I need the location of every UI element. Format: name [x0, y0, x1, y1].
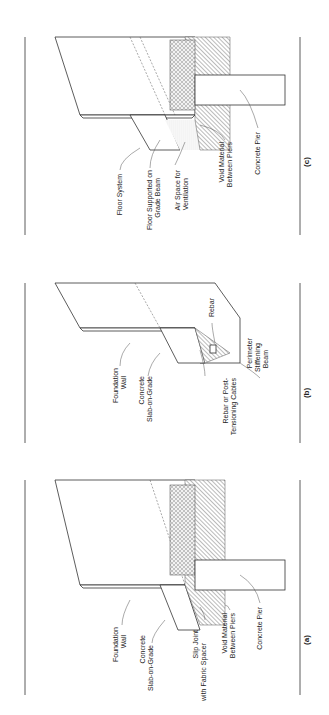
label-pier: Concrete Pier [254, 131, 261, 174]
panel-b: Foundation Wall Concrete Slab-on-Grade R… [25, 283, 311, 443]
label-cables-2: Tensioning Cables [230, 378, 238, 436]
label-void-2: Between Piers [226, 142, 233, 188]
void-material [170, 40, 195, 110]
label-void-1: Void Material [218, 142, 225, 183]
rebar [210, 345, 216, 353]
label-void-1: Void Material [221, 613, 228, 654]
label-wall-1: Foundation [112, 627, 119, 662]
label-slab-2: Slab-on-Grade [146, 376, 153, 422]
label-beam-3: Beam [262, 350, 269, 368]
label-cables-1: Rebar or Post- [222, 377, 229, 423]
label-wall-2: Wall [120, 635, 127, 649]
label-pier: Concrete Pier [256, 606, 263, 649]
label-slab-1: Concrete [139, 635, 146, 664]
panel-c: Floor System Floor Supported on Grade Be… [25, 37, 311, 235]
label-slip-2: with Fabric Spacer [200, 642, 208, 702]
label-grade-beam-1: Floor Supported on [146, 170, 154, 230]
label-slab-2: Slab-on-Grade [147, 645, 154, 691]
caption-a: (a) [302, 635, 311, 645]
panel-a: Foundation Wall Concrete Slab-on-Grade S… [25, 480, 311, 702]
label-slip-1: Slip Joint [192, 630, 200, 658]
label-wall-1: Foundation [112, 368, 119, 403]
label-slab-1: Concrete [138, 376, 145, 405]
label-wall-2: Wall [120, 376, 127, 390]
label-rebar: Rebar [208, 297, 215, 317]
foundation-diagram: Floor System Floor Supported on Grade Be… [0, 0, 329, 715]
void-material [170, 485, 195, 575]
label-grade-beam-2: Grade Beam [154, 178, 161, 218]
label-air-2: Ventilation [182, 178, 189, 210]
caption-c: (c) [302, 157, 311, 167]
label-floor-system: Floor System [116, 174, 124, 215]
label-air-1: Air Space for [174, 169, 182, 210]
label-beam-2: Stiffening [254, 343, 262, 372]
caption-b: (b) [302, 388, 311, 399]
label-void-2: Between Piers [229, 613, 236, 659]
label-beam-1: Perimeter [246, 337, 253, 368]
